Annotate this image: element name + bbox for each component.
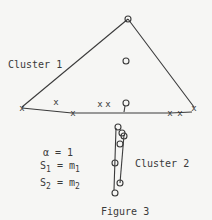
cluster1-x-mark: x <box>70 108 76 118</box>
cluster1-point <box>123 100 129 106</box>
cluster2-point <box>112 190 118 196</box>
cluster1-point <box>123 58 129 64</box>
cluster1-x-mark: x <box>177 108 183 118</box>
triangle-right-edge <box>128 19 194 107</box>
figure-3: x x x x x x x x Cluster 1 Cluster 2 α = … <box>0 0 212 220</box>
s1-param: S1 = m1 <box>40 159 80 176</box>
cluster-diagram: x x x x x x x x <box>0 0 212 220</box>
cluster1-x-mark: x <box>105 99 111 109</box>
cluster1-stem <box>124 106 125 112</box>
alpha-param: α = 1 <box>40 146 80 159</box>
cluster1-x-mark: x <box>97 99 103 109</box>
s2-param: S2 = m2 <box>40 176 80 193</box>
cluster1-x-mark: x <box>19 103 25 113</box>
cluster2-left-line <box>114 128 116 190</box>
cluster1-x-mark: x <box>167 108 173 118</box>
cluster1-label: Cluster 1 <box>8 60 62 70</box>
cluster2-label: Cluster 2 <box>135 159 189 169</box>
cluster1-x-mark: x <box>53 97 59 107</box>
figure-caption: Figure 3 <box>101 207 149 217</box>
cluster2-point <box>115 124 121 130</box>
parameters-legend: α = 1 S1 = m1 S2 = m2 <box>40 146 80 193</box>
cluster1-x-mark: x <box>191 103 197 113</box>
cluster2-point <box>117 141 123 147</box>
